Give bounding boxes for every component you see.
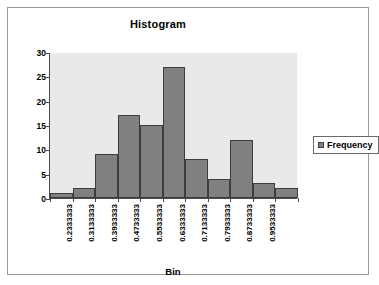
x-axis-tick-mark — [118, 198, 119, 202]
chart-frame: Histogram Frequency 0510152025300.233333… — [7, 7, 369, 275]
histogram-bar — [208, 179, 231, 198]
x-axis-tick-label: 0.3933333 — [110, 204, 119, 242]
histogram-bar — [275, 188, 298, 198]
y-axis-tick-mark — [46, 102, 50, 103]
histogram-bar — [140, 125, 163, 198]
x-axis-tick-label: 0.8733333 — [245, 204, 254, 242]
x-axis-tick-mark — [230, 198, 231, 202]
x-axis-tick-label: 0.6333333 — [178, 204, 187, 242]
x-axis-tick-mark — [163, 198, 164, 202]
x-axis-tick-label: 0.3133333 — [87, 204, 96, 242]
x-axis-tick-label: 0.2333333 — [65, 204, 74, 242]
legend-label-frequency: Frequency — [327, 140, 373, 150]
x-axis-tick-mark — [275, 198, 276, 202]
histogram-bar — [118, 115, 141, 198]
y-axis-tick-mark — [46, 126, 50, 127]
histogram-bar — [230, 140, 253, 198]
x-axis-tick-label: 0.7933333 — [223, 204, 232, 242]
y-axis-tick-mark — [46, 77, 50, 78]
y-axis-tick-label: 10 — [12, 145, 46, 155]
y-axis-tick-label: 20 — [12, 97, 46, 107]
histogram-bar — [185, 159, 208, 198]
y-axis-tick-mark — [46, 175, 50, 176]
x-axis-tick-label: 0.9533333 — [268, 204, 277, 242]
x-axis-tick-mark — [208, 198, 209, 202]
x-axis-title: Bin — [49, 266, 297, 277]
y-axis-tick-label: 15 — [12, 121, 46, 131]
histogram-bar — [73, 188, 96, 198]
x-axis-tick-mark — [185, 198, 186, 202]
x-axis-tick-label: 0.5533333 — [155, 204, 164, 242]
y-axis-tick-mark — [46, 53, 50, 54]
y-axis-tick-label: 0 — [12, 194, 46, 204]
y-axis-tick-label: 5 — [12, 170, 46, 180]
histogram-bar — [95, 154, 118, 198]
histogram-bar — [50, 193, 73, 198]
plot-inner: 0510152025300.23333330.31333330.39333330… — [50, 53, 297, 198]
y-axis-tick-label: 30 — [12, 48, 46, 58]
x-axis-tick-label: 0.4733333 — [132, 204, 141, 242]
x-axis-tick-mark — [95, 198, 96, 202]
x-axis-tick-mark — [253, 198, 254, 202]
x-axis-tick-label: 0.7133333 — [200, 204, 209, 242]
legend-swatch-frequency — [318, 142, 324, 148]
y-axis-tick-label: 25 — [12, 72, 46, 82]
plot-area: 0510152025300.23333330.31333330.39333330… — [49, 53, 297, 199]
histogram-bar — [253, 183, 276, 198]
chart-title: Histogram — [8, 18, 308, 30]
x-axis-tick-mark — [50, 198, 51, 202]
histogram-bar — [163, 67, 186, 198]
x-axis-tick-mark — [140, 198, 141, 202]
x-axis-tick-mark — [298, 198, 299, 202]
y-axis-tick-mark — [46, 150, 50, 151]
chart-legend: Frequency — [313, 136, 379, 154]
x-axis-tick-mark — [73, 198, 74, 202]
